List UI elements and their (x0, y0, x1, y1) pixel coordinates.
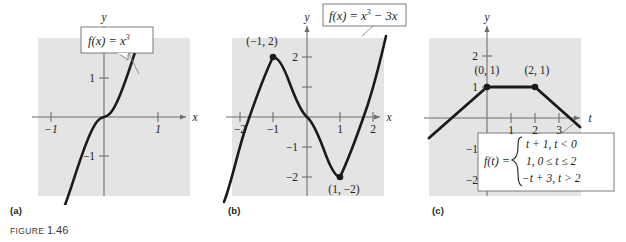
graph-a: −1 1 1 −1 x y f(x) = x3 (0, 0, 208, 205)
x-tick-label-a-1: 1 (155, 123, 161, 135)
y-tick-label-c-2: −1 (466, 143, 478, 155)
figure-number-value: 1.46 (47, 224, 68, 236)
panel-caption-c: (c) (432, 205, 444, 216)
y-tick-label-a-0: 1 (89, 72, 95, 84)
y-axis-label-c: y (483, 11, 490, 24)
piecewise-lhs-c: f(t) = (484, 154, 510, 168)
y-axis-arrow-b (304, 26, 309, 32)
callout-label-a-exp: 3 (125, 32, 130, 42)
x-axis-label-a: x (191, 111, 198, 123)
y-tick-label-b-0: 2 (292, 51, 298, 63)
figure-number: FIGURE 1.46 (10, 224, 68, 236)
point-marker-b-min (337, 174, 344, 181)
x-tick-label-b-3: 2 (370, 123, 376, 135)
panel-caption-b: (b) (228, 205, 240, 216)
point-marker-c-0 (484, 84, 491, 91)
point-marker-b-max (270, 54, 277, 61)
x-tick-label-b-0: −2 (234, 123, 246, 135)
callout-label-b: f(x) = x3 − 3x (329, 7, 398, 23)
y-axis-label-a: y (100, 11, 107, 24)
callout-leader-b (362, 26, 373, 36)
callout-label-b-main: f(x) = x (329, 9, 367, 23)
graph-b: −2 −1 1 2 2 −1 −2 x y (−1, 2) (1, −2) f(… (200, 0, 410, 205)
figure-number-prefix: FIGURE (10, 226, 44, 236)
x-tick-label-a-0: −1 (44, 123, 58, 135)
graph-c: 1 2 3 2 1 −1 −2 t y (0, 1) (2, 1) f(t) =… (410, 0, 626, 205)
piecewise-row-c-0: t + 1, t < 0 (526, 138, 577, 151)
point-label-b-min: (1, −2) (328, 183, 360, 196)
panel-a: −1 1 1 −1 x y f(x) = x3 (a) (0, 0, 208, 242)
y-tick-label-a-1: −1 (83, 150, 95, 162)
y-tick-label-b-1: −1 (286, 141, 298, 153)
panel-c: 1 2 3 2 1 −1 −2 t y (0, 1) (2, 1) f(t) =… (410, 0, 618, 242)
y-tick-label-c-0: 2 (472, 50, 478, 62)
callout-label-a: f(x) = x3 (88, 32, 130, 48)
callout-label-b-tail: − 3x (371, 9, 398, 23)
point-marker-c-2 (532, 84, 539, 91)
callout-label-a-main: f(x) = x (88, 34, 126, 48)
panel-b: −2 −1 1 2 2 −1 −2 x y (−1, 2) (1, −2) f(… (200, 0, 408, 242)
y-axis-arrow-c (484, 26, 489, 32)
t-tick-label-c-0: 1 (508, 124, 514, 136)
y-tick-label-b-2: −2 (286, 171, 298, 183)
x-tick-label-b-1: −1 (267, 123, 279, 135)
x-tick-label-b-2: 1 (337, 123, 343, 135)
point-label-b-max: (−1, 2) (246, 35, 278, 48)
t-tick-label-c-2: 3 (556, 124, 562, 136)
y-axis-label-b: y (303, 11, 310, 24)
figure-root: −1 1 1 −1 x y f(x) = x3 (a) (0, 0, 626, 242)
t-tick-label-c-1: 2 (532, 124, 538, 136)
piecewise-row-c-1: 1, 0 ≤ t ≤ 2 (526, 155, 577, 168)
piecewise-row-c-2: −t + 3, t > 2 (522, 172, 581, 185)
y-tick-label-c-3: −2 (466, 174, 478, 186)
point-label-c-0: (0, 1) (475, 64, 500, 77)
t-axis-label-c: t (588, 112, 592, 124)
point-label-c-1: (2, 1) (525, 64, 550, 77)
x-axis-label-b: x (385, 111, 392, 123)
panel-caption-a: (a) (10, 205, 22, 216)
y-tick-label-c-1: 1 (472, 81, 478, 93)
